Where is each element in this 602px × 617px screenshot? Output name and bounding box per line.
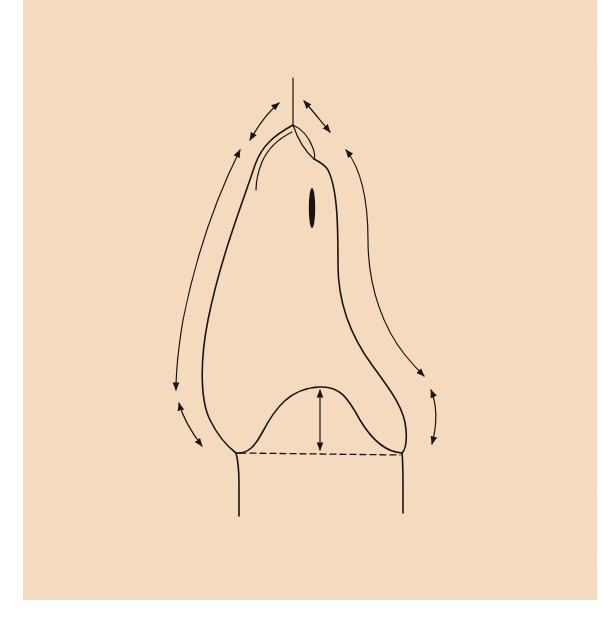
- arrow-top-right: [304, 101, 330, 132]
- arrow-lower-left: [179, 403, 202, 446]
- arrow-left-long: [176, 150, 240, 390]
- base-arch: [236, 387, 402, 453]
- right-stem: [402, 453, 403, 513]
- dark-oblong-mark: [309, 188, 315, 228]
- apex-lobe: [293, 125, 315, 159]
- arrow-lower-right: [431, 390, 436, 444]
- inner-contour-line: [256, 132, 292, 190]
- left-stem: [236, 453, 239, 516]
- diagram-figure: [0, 0, 602, 617]
- dashed-baseline: [240, 453, 400, 455]
- main-outline-left: [202, 125, 293, 453]
- arrow-top-left: [250, 103, 279, 140]
- main-outline-right: [314, 159, 406, 453]
